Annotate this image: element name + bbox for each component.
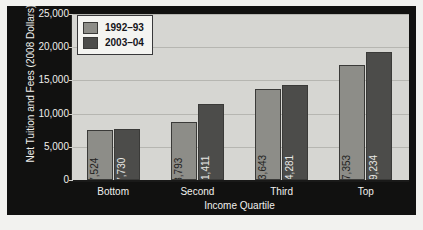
y-axis-tick-label: 20,000 [38,42,69,52]
chart-figure: 05,00010,00015,00020,00025,000 Net Tuiti… [0,0,423,230]
x-axis-line [71,180,409,182]
bar-value-label: $7,524 [89,158,100,180]
bar-value-label: $7,730 [116,158,127,180]
bar-value-label: $14,281 [284,155,295,180]
bar-value-label: $8,793 [173,158,184,180]
bar: $8,793 [171,122,197,180]
legend-label: 1992–93 [105,22,144,33]
legend-swatch [83,22,98,34]
bar-value-label: $13,643 [257,155,268,180]
y-axis-tick-mark [69,147,73,148]
y-axis-tick-label: 25,000 [38,9,69,19]
legend-label: 2003–04 [105,37,144,48]
y-axis-tick-mark [69,114,73,115]
chart-legend: 1992–932003–04 [77,15,153,55]
bar-value-label: $11,411 [200,156,211,180]
y-axis-tick-label: 10,000 [38,109,69,119]
bar: $13,643 [255,89,281,180]
y-axis-tick-label: 15,000 [38,75,69,85]
bar: $7,524 [87,130,113,180]
x-axis-title: Income Quartile [71,200,408,211]
y-axis-title: Net Tuition and Fees (2008 Dollars) [25,6,36,169]
y-axis-tick-label: 5,000 [44,142,69,152]
chart-canvas: 05,00010,00015,00020,00025,000 Net Tuiti… [7,6,416,215]
bar: $19,234 [366,52,392,180]
x-axis-tick-label: Second [180,186,214,197]
x-axis-tick-label: Bottom [97,186,129,197]
bar-value-label: $19,234 [368,155,379,180]
y-axis-tick-mark [69,47,73,48]
bar: $11,411 [198,104,224,180]
legend-item: 1992–93 [83,20,144,35]
bar: $17,353 [339,65,365,180]
y-axis-tick-mark [69,180,73,181]
bar-value-label: $17,353 [341,155,352,180]
bar: $14,281 [282,85,308,180]
y-axis-tick-mark [69,80,73,81]
y-axis-ticks: 05,00010,00015,00020,00025,000 [7,6,69,215]
x-axis-tick-label: Top [358,186,374,197]
bar: $7,730 [114,129,140,180]
x-axis-tick-label: Third [270,186,293,197]
y-axis-tick-mark [69,14,73,15]
legend-swatch [83,37,98,49]
legend-item: 2003–04 [83,35,144,50]
